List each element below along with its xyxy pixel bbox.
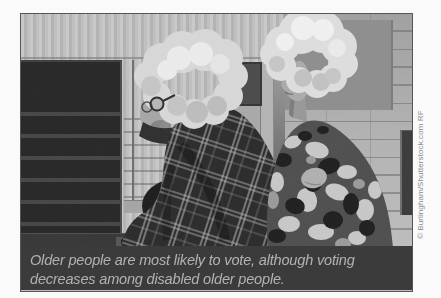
caption-line-1: Older people are most likely to vote, al… xyxy=(30,250,393,269)
figure-caption: Older people are most likely to vote, al… xyxy=(21,246,412,290)
caption-line-2: decreases among disabled older people. xyxy=(30,269,393,288)
photo-credit: © Burlingham/Shutterstock.com RF xyxy=(416,98,425,239)
people-illustration xyxy=(21,14,412,246)
film-grain-overlay xyxy=(21,14,412,246)
photo-voting-scene xyxy=(21,14,412,246)
textbook-photo-figure: Older people are most likely to vote, al… xyxy=(20,13,413,292)
